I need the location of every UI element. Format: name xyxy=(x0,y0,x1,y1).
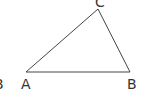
triangle-abc xyxy=(26,9,130,72)
triangle-diagram: B A B C xyxy=(0,0,146,98)
label-cutoff-b: B xyxy=(0,76,4,92)
label-vertex-c: C xyxy=(95,0,105,10)
label-vertex-a: A xyxy=(21,76,31,92)
label-vertex-b: B xyxy=(127,76,137,92)
